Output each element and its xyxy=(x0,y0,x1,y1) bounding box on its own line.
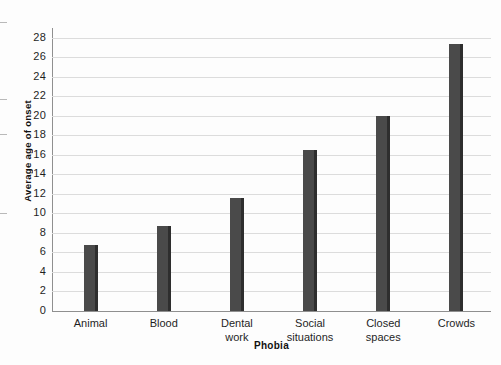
y-tick-label: 12 xyxy=(14,187,46,199)
gridline xyxy=(52,311,491,312)
bar xyxy=(84,245,98,311)
page-edge-tick xyxy=(0,213,7,214)
y-tick-label: 4 xyxy=(14,265,46,277)
y-tick-label: 24 xyxy=(14,70,46,82)
plot-area xyxy=(52,28,490,311)
y-tick-label: 2 xyxy=(14,284,46,296)
y-tick-label: 28 xyxy=(14,31,46,43)
y-tick-label: 6 xyxy=(14,245,46,257)
bar xyxy=(157,226,171,311)
y-tick-label: 26 xyxy=(14,50,46,62)
y-tick-label: 20 xyxy=(14,109,46,121)
page-edge-tick xyxy=(0,22,7,23)
y-tick-label: 14 xyxy=(14,167,46,179)
bar xyxy=(376,116,390,311)
y-tick-label: 8 xyxy=(14,226,46,238)
bar xyxy=(303,150,317,311)
y-tick-label: 0 xyxy=(14,304,46,316)
bar xyxy=(230,198,244,311)
bar-chart: Average age of onset 0246810121416182022… xyxy=(0,0,501,365)
y-tick-label: 16 xyxy=(14,148,46,160)
page-edge-tick xyxy=(0,134,7,135)
page-edge-tick xyxy=(0,99,7,100)
y-tick-label: 10 xyxy=(14,206,46,218)
y-tick-label: 18 xyxy=(14,128,46,140)
x-axis-label: Phobia xyxy=(52,340,491,351)
y-tick-label: 22 xyxy=(14,89,46,101)
bar xyxy=(449,44,463,311)
x-tick-label: Crowds xyxy=(410,316,501,330)
